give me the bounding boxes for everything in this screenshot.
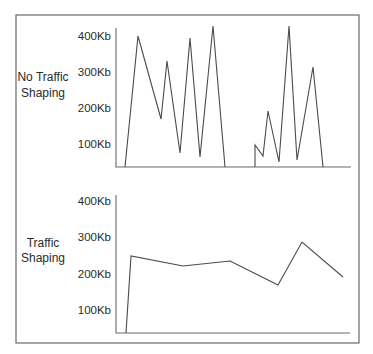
- side-label-line1: No Traffic: [17, 70, 68, 84]
- axes: [116, 195, 350, 333]
- series-burst-1: [125, 26, 225, 167]
- y-tick-400: 400Kb: [78, 195, 111, 207]
- series-burst-2: [255, 26, 323, 167]
- side-label-line2: Shaping: [21, 86, 65, 100]
- chart-traffic-shaping: Traffic Shaping 400Kb 300Kb 200Kb 100Kb: [21, 195, 350, 333]
- traffic-shaping-figure: No Traffic Shaping 400Kb 300Kb 200Kb 100…: [0, 0, 373, 354]
- side-label-line2: Shaping: [21, 251, 65, 265]
- series-shaped: [126, 242, 343, 333]
- y-tick-100: 100Kb: [78, 304, 111, 316]
- side-label-line1: Traffic: [27, 236, 60, 250]
- chart-no-traffic-shaping: No Traffic Shaping 400Kb 300Kb 200Kb 100…: [17, 26, 351, 167]
- y-tick-100: 100Kb: [78, 138, 111, 150]
- y-tick-300: 300Kb: [78, 231, 111, 243]
- y-tick-200: 200Kb: [78, 102, 111, 114]
- y-tick-400: 400Kb: [78, 30, 111, 42]
- y-tick-200: 200Kb: [78, 268, 111, 280]
- y-tick-300: 300Kb: [78, 66, 111, 78]
